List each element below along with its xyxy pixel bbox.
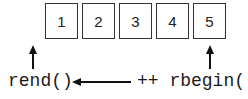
rbegin-up-arrow-icon (206, 45, 214, 69)
rend-up-arrow-icon (29, 45, 37, 69)
rbegin-label: ++ rbegin() (137, 71, 248, 91)
rend-label: rend() (8, 71, 73, 91)
increment-left-arrow-icon (72, 78, 131, 86)
